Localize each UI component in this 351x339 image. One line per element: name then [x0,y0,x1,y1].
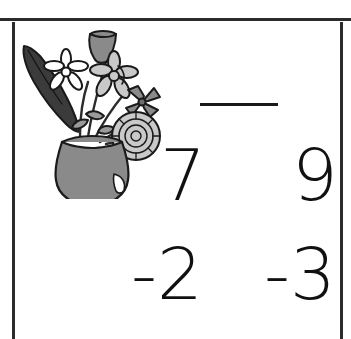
page-top-rule [0,18,351,21]
page-right-rule [340,22,343,339]
problem-2-subtrahend: -3 [264,238,336,310]
worksheet-page: 7 -2 9 -3 [0,0,351,339]
problem-2-minuend: 9 [292,139,338,211]
problem-1-subtrahend: -2 [131,238,203,310]
vase-with-flowers-clipart [18,24,178,199]
page-left-rule [12,22,15,339]
answer-line-problem-1 [200,103,278,106]
problem-1-minuend: 7 [160,139,206,211]
